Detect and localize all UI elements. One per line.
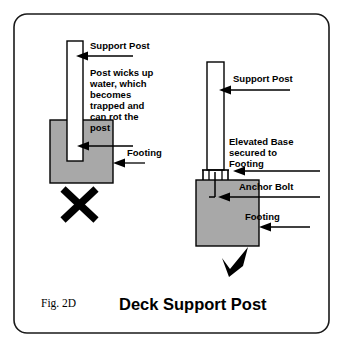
note-line-1: Post wicks up bbox=[90, 67, 154, 78]
note-line-2: water, which bbox=[89, 78, 147, 89]
figure-title: Deck Support Post bbox=[119, 295, 267, 313]
figure-canvas: Support Post Post wicks up water, which … bbox=[0, 0, 343, 348]
bad-support-post bbox=[67, 41, 83, 161]
note-line-4: trapped and bbox=[90, 100, 145, 111]
note-line-3: becomes bbox=[90, 89, 131, 100]
good-support-post bbox=[207, 62, 224, 170]
elevated-base-line-3: Footing bbox=[229, 158, 264, 169]
elevated-base-line-2: secured to bbox=[229, 147, 277, 158]
deck-support-post-figure: Support Post Post wicks up water, which … bbox=[0, 0, 343, 348]
note-line-5: can rot the bbox=[90, 111, 139, 122]
bad-support-post-label: Support Post bbox=[90, 40, 150, 51]
anchor-bolt-label: Anchor Bolt bbox=[239, 181, 294, 192]
elevated-base-line-1: Elevated Base bbox=[229, 136, 293, 147]
figure-number: Fig. 2D bbox=[41, 297, 76, 310]
bad-footing-label: Footing bbox=[127, 147, 162, 158]
good-footing-label: Footing bbox=[245, 211, 280, 222]
note-line-6: post bbox=[90, 122, 111, 133]
good-support-post-label: Support Post bbox=[233, 73, 293, 84]
